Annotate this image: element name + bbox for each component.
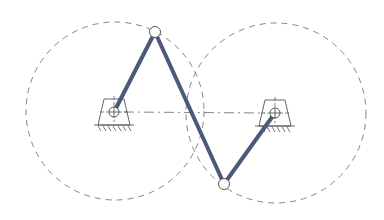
right-ground-pivot: [270, 108, 280, 118]
diagram-canvas: [0, 0, 384, 220]
right-crank-link: [224, 113, 275, 184]
coupler-link: [155, 32, 224, 184]
frame-centerline: [124, 112, 265, 113]
linkage-diagram: [0, 0, 384, 220]
top-joint: [150, 27, 161, 38]
left-crank-link: [114, 32, 155, 112]
left-ground-pivot: [109, 107, 119, 117]
bottom-joint: [219, 179, 230, 190]
